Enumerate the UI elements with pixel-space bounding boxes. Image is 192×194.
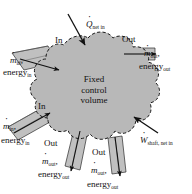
stream-energy-inlet-lower-left: energyin [1,136,30,145]
stream-energy-inlet-upper-left: energyin [3,68,32,77]
cv-line-1: Fixed [62,74,126,85]
mdot-symbol: m [42,157,49,166]
stream-mdot-inlet-lower-left: min, [3,122,16,131]
stream-mdot-inlet-upper-left: min, [10,56,23,65]
energy-label: energy [139,61,163,71]
arrow-work-shaft-net-in [134,117,158,133]
stream-mdot-outlet-right: mout, [144,49,160,58]
work-symbol: W [140,136,148,145]
mdot-symbol: m [91,166,98,175]
heat-input-label: Qnet in [86,20,105,29]
mdot-subscript: in [17,60,21,66]
mdot-subscript: out [49,161,56,167]
stream-tag-outlet-bottom-right: Out [92,148,106,157]
stream-tag-inlet-upper-left: In [55,36,63,45]
stream-energy-outlet-bottom-left: energyout [38,170,69,179]
comma: , [21,55,23,65]
cv-line-2: control [62,85,126,96]
mdot-subscript: out [151,53,158,59]
energy-subscript: out [111,184,118,190]
energy-subscript: in [27,72,31,78]
stream-energy-outlet-right: energyout [139,62,170,71]
energy-label: energy [3,67,27,77]
control-volume-label: Fixed control volume [62,74,126,106]
cv-line-3: volume [62,95,126,106]
mdot-symbol: m [144,49,151,58]
work-subscript: shaft, net in [148,140,173,146]
comma: , [14,121,16,131]
energy-subscript: in [25,140,29,146]
heat-subscript: net in [93,24,105,30]
mdot-subscript: in [10,126,14,132]
stream-mdot-outlet-bottom-right: mout, [91,166,107,175]
stream-tag-inlet-lower-left: In [38,102,46,111]
mdot-symbol: m [10,56,17,65]
heat-symbol: Q [86,20,93,29]
work-input-label: Wshaft, net in [140,136,173,145]
stream-tag-outlet-right: Out [122,35,136,44]
comma: , [157,48,159,58]
energy-label: energy [1,135,25,145]
comma: , [55,156,57,166]
energy-subscript: out [163,66,170,72]
stream-mdot-outlet-bottom-left: mout, [42,157,58,166]
mdot-subscript: out [98,170,105,176]
stream-tag-outlet-bottom-left: Out [44,139,58,148]
mdot-symbol: m [3,122,10,131]
figure-canvas: Qnet in Wshaft, net in In min, energyin … [0,0,192,194]
comma: , [104,165,106,175]
energy-label: energy [38,169,62,179]
energy-label: energy [87,179,111,189]
stream-energy-outlet-bottom-right: energyout [87,180,118,189]
energy-subscript: out [62,174,69,180]
